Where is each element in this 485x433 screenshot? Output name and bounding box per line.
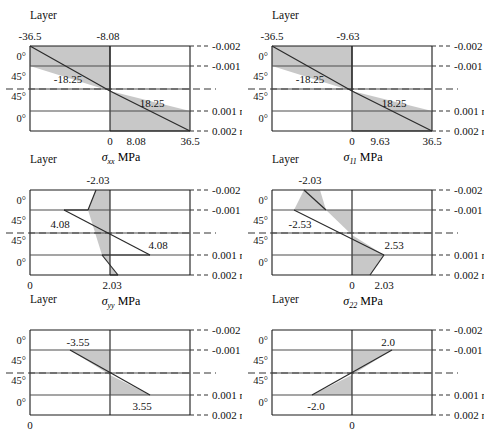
layer-label-1: 0° [259,195,268,206]
depth-tick-3: 0.001 m [212,105,242,117]
layer-header: Layer [272,153,299,166]
chart-sigma-yy: Layer 0° 45° 45° 0° -0.002 m -0.001 m [0,148,242,293]
annotation-mid-pos: 18.25 [382,97,407,109]
annotation-neg: -2.03 [87,174,110,186]
depth-tick-1: -0.002 m [212,324,242,336]
depth-tick-2: -0.001 m [212,344,242,356]
annotation-mid-neg: -18.25 [54,73,83,85]
layer-header: Layer [30,9,57,22]
layer-label-3: 45° [11,235,26,246]
depth-tick-4: 0.002 m [212,269,242,281]
depth-tick-4: 0.002 m [212,409,242,421]
layer-label-2: 45° [11,355,26,366]
x-tick-0: 0 [107,135,113,147]
x-tick-0: 0 [349,135,355,147]
annotation-inner-neg: -9.63 [337,30,360,42]
annotation-min: -36.5 [261,30,284,42]
x-tick-0: 0 [27,419,33,431]
annotation-inner-neg: -8.08 [97,30,120,42]
layer-label-2: 45° [253,215,268,226]
layer-label-1: 0° [17,51,26,62]
layer-label-4: 0° [17,257,26,268]
depth-tick-3: 0.001 m [454,389,484,401]
stress-fill-bottom [352,255,384,275]
annotation-right: 4.08 [148,239,168,251]
layer-label-1: 0° [17,335,26,346]
annotation-pos: 2.0 [381,336,395,348]
layer-header: Layer [30,293,57,306]
layer-label-4: 0° [259,257,268,268]
chart-tau-xy: Layer 0° 45° 45° 0° -0.002 m -0.001 m 0.… [0,288,242,433]
depth-tick-4: 0.002 m [454,269,484,281]
layer-header: Layer [272,9,299,22]
annotation-mid-neg: -18.25 [296,73,325,85]
chart-sigma-xx: Layer 0° 45° 45° 0° -0.002 m -0. [0,4,242,149]
depth-tick-3: 0.001 m [454,105,484,117]
annotation-left: -2.53 [289,218,312,230]
layer-label-3: 45° [253,375,268,386]
annotation-neg: -2.0 [307,400,325,412]
layer-label-4: 0° [259,113,268,124]
layer-header: Layer [272,293,299,306]
layer-label-4: 0° [17,397,26,408]
layer-label-1: 0° [259,335,268,346]
depth-tick-3: 0.001 m [212,249,242,261]
depth-tick-1: -0.002 m [212,184,242,196]
depth-tick-2: -0.001 m [454,60,484,72]
layer-label-4: 0° [17,113,26,124]
annotation-left: 4.08 [50,218,70,230]
layer-label-2: 45° [253,355,268,366]
layer-label-3: 45° [11,91,26,102]
layer-label-2: 45° [11,71,26,82]
depth-tick-1: -0.002 m [454,324,484,336]
layer-label-1: 0° [259,51,268,62]
x-tick-0: 0 [349,419,355,431]
depth-tick-1: -0.002 m [454,184,484,196]
layer-label-3: 45° [253,235,268,246]
stress-distribution-figure: Layer 0° 45° 45° 0° -0.002 m -0. [0,0,485,433]
layer-label-2: 45° [11,215,26,226]
depth-tick-2: -0.001 m [212,60,242,72]
annotation-right: 2.53 [384,239,404,251]
x-tick-2: 36.5 [422,135,442,147]
depth-tick-4: 0.002 m [212,125,242,137]
chart-tau-12: Layer 0° 45° 45° 0° -0.002 m -0.001 m 0.… [242,288,484,433]
layer-label-1: 0° [17,195,26,206]
layer-header: Layer [30,153,57,166]
x-tick-1: 9.63 [370,135,390,147]
depth-tick-3: 0.001 m [454,249,484,261]
layer-label-2: 45° [253,71,268,82]
annotation-neg: -2.03 [299,174,322,186]
annotation-mid-pos: 18.25 [140,97,165,109]
annotation-neg: -3.55 [67,336,90,348]
depth-tick-1: -0.002 m [454,40,484,52]
chart-sigma-22: Layer 0° 45° 45° 0° -0.002 m -0.001 m 0.… [242,148,484,293]
depth-tick-2: -0.001 m [454,204,484,216]
x-tick-1: 8.08 [126,135,146,147]
depth-tick-2: -0.001 m [454,344,484,356]
stress-fill-upper [88,190,110,210]
depth-tick-4: 0.002 m [454,125,484,137]
annotation-min: -36.5 [19,30,42,42]
layer-label-3: 45° [253,91,268,102]
stress-fill-upper [294,190,326,210]
chart-sigma-11: Layer 0° 45° 45° 0° -0.002 m -0.001 m 0.… [242,4,484,149]
x-tick-2: 36.5 [180,135,200,147]
layer-label-3: 45° [11,375,26,386]
depth-tick-1: -0.002 m [212,40,242,52]
layer-label-4: 0° [259,397,268,408]
depth-tick-2: -0.001 m [212,204,242,216]
annotation-pos: 3.55 [132,400,152,412]
depth-tick-4: 0.002 m [454,409,484,421]
depth-tick-3: 0.001 m [212,389,242,401]
